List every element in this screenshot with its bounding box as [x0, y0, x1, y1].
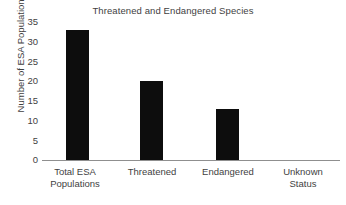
x-tick-label-total-esa-populations: Total ESA Populations [33, 166, 117, 190]
x-tick-label-line1: Threatened [128, 166, 177, 177]
y-tick-label-5: 5 [4, 136, 38, 146]
y-tick-label-30: 30 [4, 37, 38, 47]
x-tick-label-threatened: Threatened [112, 166, 192, 178]
x-tick-label-line1: Total ESA [54, 166, 96, 177]
x-tick-label-unknown-status: Unknown Status [263, 166, 343, 190]
y-tick-label-20: 20 [4, 76, 38, 86]
x-tick-label-line2: Populations [33, 178, 117, 190]
x-tick-label-endangered: Endangered [188, 166, 268, 178]
y-tick-label-25: 25 [4, 57, 38, 67]
bar-threatened[interactable] [140, 81, 163, 160]
bar-endangered[interactable] [216, 109, 239, 160]
y-tick-label-10: 10 [4, 116, 38, 126]
x-tick-label-line2: Status [263, 178, 343, 190]
bar-chart-figure: Threatened and Endangered Species Number… [0, 0, 346, 205]
x-tick-label-line1: Unknown [283, 166, 323, 177]
x-axis-line [42, 160, 340, 161]
y-tick-label-0: 0 [4, 155, 38, 165]
bar-total-esa-populations[interactable] [66, 30, 89, 160]
x-tick-label-line1: Endangered [202, 166, 254, 177]
chart-title: Threatened and Endangered Species [0, 5, 346, 16]
y-tick-label-35: 35 [4, 17, 38, 27]
y-tick-label-15: 15 [4, 96, 38, 106]
plot-area [42, 16, 340, 160]
